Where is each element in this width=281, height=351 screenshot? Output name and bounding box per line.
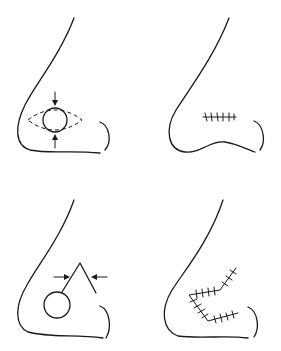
dashed-ellipse-excision (28, 110, 82, 130)
panel-top-right (169, 18, 263, 152)
panel-bottom-left (18, 200, 110, 338)
nose-outline (18, 18, 100, 153)
nose-outline (169, 18, 255, 152)
nose-closure-diagram (0, 0, 281, 351)
panel-bottom-right (164, 200, 257, 338)
arrow-up-icon (52, 134, 58, 148)
linear-suture-line (203, 113, 236, 121)
arrow-down-icon (52, 92, 58, 106)
lesion-circle (44, 292, 70, 318)
arrow-left-icon (91, 274, 107, 280)
nostril-curve (100, 306, 109, 338)
nostril-curve (248, 307, 257, 337)
z-flap-suture-line (189, 268, 238, 323)
arrow-right-icon (54, 274, 70, 280)
nostril-curve (254, 121, 263, 150)
panel-top-left (18, 18, 109, 153)
lesion-circle (43, 108, 67, 132)
nostril-curve (100, 122, 109, 150)
